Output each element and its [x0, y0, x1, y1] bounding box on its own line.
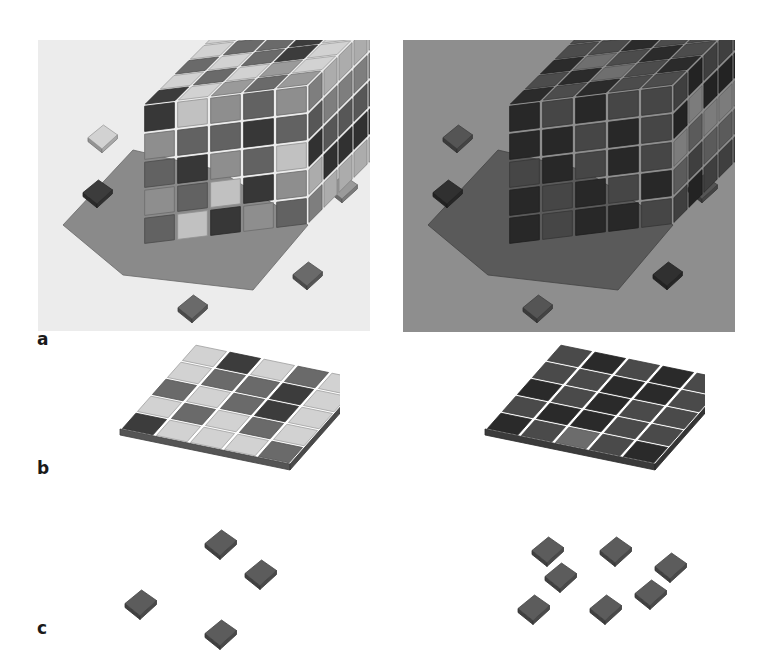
block-front-face — [178, 155, 208, 184]
block-front-face — [576, 123, 606, 152]
panel-a-right-dark-cube — [403, 40, 735, 332]
block-front-face — [642, 199, 672, 228]
block-front-face — [609, 175, 639, 204]
block-front-face — [510, 215, 540, 244]
block-front-face — [510, 159, 540, 188]
block-front-face — [642, 143, 672, 172]
block-front-face — [211, 151, 241, 180]
panel-label-b: b — [37, 460, 49, 477]
panel-b-right-dark-layer — [465, 340, 705, 480]
seven-tiles-illustration — [490, 515, 710, 635]
block-front-face — [145, 159, 175, 188]
block-front-face — [510, 131, 540, 160]
block-front-face — [145, 131, 175, 160]
block-front-face — [543, 155, 573, 184]
panel-label-a: a — [37, 331, 48, 348]
block-front-face — [543, 183, 573, 212]
dark-cube-illustration — [403, 40, 735, 332]
block-front-face — [244, 91, 274, 120]
block-front-face — [642, 87, 672, 116]
block-front-face — [576, 95, 606, 124]
block-front-face — [145, 103, 175, 132]
four-tiles-illustration — [100, 510, 320, 650]
panel-label-c: c — [37, 620, 47, 637]
block-front-face — [244, 119, 274, 148]
block-front-face — [145, 187, 175, 216]
block-front-face — [609, 203, 639, 232]
lit-layer-illustration — [100, 340, 340, 480]
block-front-face — [510, 187, 540, 216]
block-front-face — [543, 211, 573, 240]
block-front-face — [277, 199, 307, 228]
lit-cube-illustration — [38, 40, 370, 331]
block-front-face — [244, 175, 274, 204]
block-front-face — [543, 127, 573, 156]
block-front-face — [211, 207, 241, 236]
block-front-face — [178, 99, 208, 128]
block-front-face — [277, 87, 307, 116]
block-front-face — [609, 119, 639, 148]
panel-c-left-four-tiles — [100, 510, 320, 650]
block-front-face — [211, 123, 241, 152]
block-front-face — [211, 95, 241, 124]
block-front-face — [642, 115, 672, 144]
panel-a-left-lit-cube — [38, 40, 370, 331]
block-front-face — [277, 143, 307, 172]
block-side-face — [369, 40, 370, 50]
block-front-face — [244, 203, 274, 232]
block-front-face — [609, 147, 639, 176]
panel-c-right-seven-tiles — [490, 515, 710, 635]
block-front-face — [211, 179, 241, 208]
block-side-face — [734, 40, 735, 50]
block-front-face — [576, 151, 606, 180]
block-front-face — [543, 99, 573, 128]
block-front-face — [277, 115, 307, 144]
block-front-face — [178, 183, 208, 212]
block-front-face — [576, 207, 606, 236]
block-front-face — [609, 91, 639, 120]
block-front-face — [178, 211, 208, 240]
block-front-face — [510, 103, 540, 132]
block-front-face — [642, 171, 672, 200]
block-front-face — [244, 147, 274, 176]
block-front-face — [145, 215, 175, 244]
block-front-face — [178, 127, 208, 156]
dark-layer-illustration — [465, 340, 705, 480]
panel-b-left-lit-layer — [100, 340, 340, 480]
block-front-face — [277, 171, 307, 200]
block-front-face — [576, 179, 606, 208]
